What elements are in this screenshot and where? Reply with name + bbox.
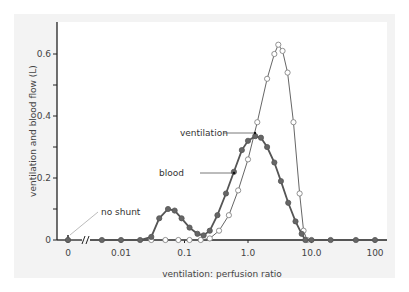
ventilation-marker — [176, 237, 181, 242]
y-tick-label: 0.4 — [37, 111, 52, 121]
x-tick-label: 0.01 — [111, 248, 131, 258]
blood-marker — [138, 237, 143, 242]
ventilation-marker — [280, 48, 285, 53]
ventilation-marker — [255, 120, 260, 125]
x-tick-label: 100 — [366, 248, 383, 258]
blood-marker — [265, 144, 270, 149]
blood-marker — [299, 231, 304, 236]
no-shunt-label: no shunt — [101, 207, 141, 217]
blood-marker — [179, 216, 184, 221]
x-tick-label: 0.1 — [177, 248, 191, 258]
y-axis-title: ventilation and blood flow (L) — [28, 65, 38, 197]
y-tick-label: 0 — [45, 235, 51, 245]
blood-marker — [278, 179, 283, 184]
blood-marker — [149, 234, 154, 239]
x-tick-label: 1.0 — [241, 248, 256, 258]
chart-canvas: 00.20.40.600.010.11.010.0100ventilation:… — [0, 0, 409, 292]
ventilation-marker — [163, 237, 168, 242]
blood-marker — [215, 213, 220, 218]
y-tick-label: 0.6 — [37, 49, 52, 59]
x-axis-title: ventilation: perfusion ratio — [162, 269, 282, 279]
y-tick-label: 0.2 — [37, 173, 51, 183]
ventilation-marker — [297, 191, 302, 196]
blood-marker — [201, 233, 206, 238]
blood-marker — [195, 231, 200, 236]
blood-marker — [223, 191, 228, 196]
ventilation-marker — [276, 42, 281, 47]
blood-marker — [165, 206, 170, 211]
blood-marker — [258, 135, 263, 140]
ventilation-marker — [236, 188, 241, 193]
blood-marker — [293, 219, 298, 224]
blood-marker — [353, 237, 358, 242]
x-tick-label: 0 — [65, 248, 71, 258]
blood-marker — [253, 134, 258, 139]
blood-marker — [286, 200, 291, 205]
ventilation-leader-dot — [254, 132, 256, 134]
blood-marker — [207, 228, 212, 233]
ventilation-marker — [216, 228, 221, 233]
ventilation-marker — [265, 76, 270, 81]
blood-marker — [303, 237, 308, 242]
blood-marker — [118, 237, 123, 242]
ventilation-marker — [187, 237, 192, 242]
ventilation-marker — [226, 213, 231, 218]
blood-marker — [157, 216, 162, 221]
blood-leader-dot — [233, 172, 235, 174]
blood-marker — [272, 160, 277, 165]
blood-marker — [328, 237, 333, 242]
no-shunt-point — [65, 237, 70, 242]
ventilation-marker — [272, 51, 277, 56]
ventilation-marker — [245, 157, 250, 162]
blood-marker — [245, 138, 250, 143]
ventilation-marker — [207, 236, 212, 241]
x-tick-label: 10.0 — [301, 248, 321, 258]
blood-marker — [99, 237, 104, 242]
blood-marker — [309, 237, 314, 242]
ventilation-marker — [285, 70, 290, 75]
blood-marker — [187, 225, 192, 230]
ventilation-label: ventilation — [180, 128, 228, 138]
blood-marker — [239, 148, 244, 153]
ventilation-marker — [198, 237, 203, 242]
blood-marker — [172, 208, 177, 213]
blood-marker — [372, 237, 377, 242]
blood-label: blood — [159, 168, 184, 178]
ventilation-marker — [291, 120, 296, 125]
